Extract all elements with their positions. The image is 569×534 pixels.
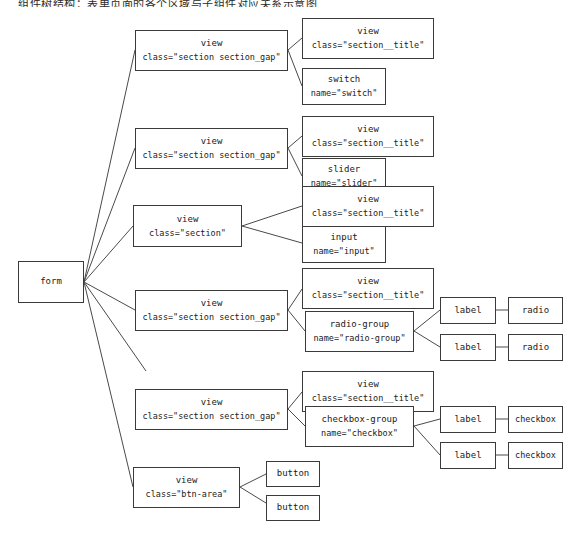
node-checkbox-group[interactable]: checkbox-group name="checkbox" <box>305 406 414 447</box>
node-label-radio-1-tag: label <box>454 304 481 317</box>
node-section-title-2-tag: view <box>357 123 379 136</box>
edge-form-to-section-input <box>84 226 133 282</box>
node-section-title-5-tag: view <box>357 378 379 391</box>
node-section-title-1-attr: class="section__title" <box>312 39 425 51</box>
node-input-tag: input <box>330 231 357 244</box>
node-label-checkbox-2[interactable]: label <box>440 442 496 469</box>
node-input[interactable]: input name="input" <box>302 226 386 263</box>
node-section-radio-attr: class="section section_gap" <box>142 311 280 323</box>
edge-section-input-to-title <box>242 206 302 226</box>
node-section-btnarea-tag: view <box>176 474 198 487</box>
node-radio-2[interactable]: radio <box>508 334 563 361</box>
node-checkbox-group-tag: checkbox-group <box>322 413 398 426</box>
node-label-radio-2-tag: label <box>454 341 481 354</box>
edge-section-switch-to-title <box>288 38 302 50</box>
edge-section-switch-to-switch <box>288 50 302 86</box>
node-section-title-5-attr: class="section__title" <box>312 392 425 404</box>
edge-section-radio-to-group <box>288 310 305 331</box>
edge-section-radio-to-title <box>288 289 302 310</box>
node-form[interactable]: form <box>18 261 84 303</box>
node-section-btnarea-attr: class="btn-area" <box>146 488 228 500</box>
edge-btnarea-to-button-2 <box>240 487 266 503</box>
node-radio-group-attr: name="radio-group" <box>313 332 405 344</box>
node-button-1-tag: button <box>277 467 310 480</box>
node-section-input-attr: class="section" <box>149 227 226 239</box>
node-section-slider-tag: view <box>201 135 223 148</box>
node-button-2[interactable]: button <box>266 495 320 521</box>
node-input-attr: name="input" <box>313 245 374 257</box>
node-section-btnarea[interactable]: view class="btn-area" <box>133 467 240 508</box>
node-checkbox-1-tag: checkbox <box>515 413 556 425</box>
node-switch-tag: switch <box>328 73 361 86</box>
node-label-radio-2[interactable]: label <box>440 334 496 361</box>
node-button-1[interactable]: button <box>266 461 320 487</box>
node-section-slider-attr: class="section section_gap" <box>142 149 280 161</box>
node-label-checkbox-2-tag: label <box>454 449 481 462</box>
edge-checkbox-group-to-label-1 <box>414 419 440 426</box>
node-section-switch-attr: class="section section_gap" <box>142 51 280 63</box>
node-switch-attr: name="switch" <box>311 87 378 99</box>
node-label-checkbox-1-tag: label <box>454 413 481 426</box>
edge-form-to-section-radio <box>84 282 135 310</box>
node-radio-1-tag: radio <box>522 304 549 317</box>
node-section-title-3[interactable]: view class="section__title" <box>302 186 434 227</box>
node-radio-2-tag: radio <box>522 341 549 354</box>
node-section-input[interactable]: view class="section" <box>133 205 242 247</box>
node-section-checkbox[interactable]: view class="section section_gap" <box>135 389 288 430</box>
node-section-title-4[interactable]: view class="section__title" <box>302 268 434 309</box>
node-radio-group-tag: radio-group <box>330 318 390 331</box>
edge-btnarea-to-button-1 <box>240 474 266 487</box>
node-label-checkbox-1[interactable]: label <box>440 406 496 433</box>
node-form-tag: form <box>40 275 62 288</box>
edge-checkbox-group-to-label-2 <box>414 426 440 455</box>
node-slider-tag: slider <box>328 163 361 176</box>
node-checkbox-1[interactable]: checkbox <box>508 406 563 433</box>
node-section-switch-tag: view <box>201 37 223 50</box>
node-section-title-1-tag: view <box>357 25 379 38</box>
diagram-canvas: 组件树结构：表单页面的各个区域与子组件对应关系示意图 <box>0 0 569 534</box>
node-checkbox-2-tag: checkbox <box>515 449 556 461</box>
edge-form-to-section-switch <box>84 50 135 282</box>
node-section-radio[interactable]: view class="section section_gap" <box>135 290 288 331</box>
node-section-title-4-attr: class="section__title" <box>312 289 425 301</box>
node-label-radio-1[interactable]: label <box>440 297 496 324</box>
node-section-checkbox-attr: class="section section_gap" <box>142 410 280 422</box>
node-section-checkbox-tag: view <box>201 396 223 409</box>
edge-section-slider-to-title <box>288 136 302 148</box>
node-section-title-2-attr: class="section__title" <box>312 137 425 149</box>
node-section-switch[interactable]: view class="section section_gap" <box>135 30 288 71</box>
node-radio-group[interactable]: radio-group name="radio-group" <box>305 311 414 352</box>
node-section-radio-tag: view <box>201 297 223 310</box>
node-section-title-2[interactable]: view class="section__title" <box>302 116 434 157</box>
diagram-title-strip: 组件树结构：表单页面的各个区域与子组件对应关系示意图 <box>18 0 558 7</box>
node-radio-1[interactable]: radio <box>508 297 563 324</box>
edge-radio-group-to-label-1 <box>414 310 440 331</box>
node-switch[interactable]: switch name="switch" <box>302 68 386 105</box>
node-button-2-tag: button <box>277 501 310 514</box>
edge-radio-group-to-label-2 <box>414 331 440 347</box>
node-checkbox-2[interactable]: checkbox <box>508 442 563 469</box>
edge-section-checkbox-to-title <box>288 392 302 409</box>
edge-form-to-section-slider <box>84 148 135 282</box>
edge-section-slider-to-slider <box>288 148 302 176</box>
node-checkbox-group-attr: name="checkbox" <box>321 427 398 439</box>
node-section-title-4-tag: view <box>357 275 379 288</box>
node-section-title-3-attr: class="section__title" <box>312 207 425 219</box>
edge-section-input-to-input <box>242 226 302 243</box>
edge-form-to-section-btnarea <box>84 282 133 487</box>
node-section-title-3-tag: view <box>357 193 379 206</box>
node-section-input-tag: view <box>177 213 199 226</box>
node-section-title-1[interactable]: view class="section__title" <box>302 18 434 59</box>
node-section-slider[interactable]: view class="section section_gap" <box>135 128 288 169</box>
